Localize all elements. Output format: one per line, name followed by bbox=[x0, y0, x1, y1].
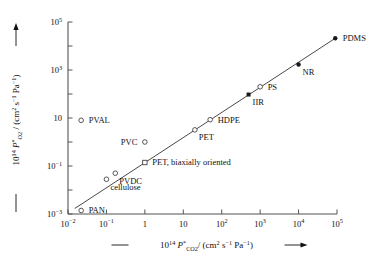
y-axis-title: 1014 P*O2 / (cm2 s−1 Pa−1) bbox=[10, 75, 23, 166]
point-label-ps: PS bbox=[268, 82, 278, 92]
chart-svg: 10−210−111010210310410510−310−110103105P… bbox=[0, 0, 379, 266]
point-label-pval: PVAL bbox=[89, 115, 110, 125]
point-label-pet-biax: PET, biaxially oriented bbox=[152, 157, 231, 167]
data-point-ps[interactable]: PS bbox=[258, 82, 278, 92]
y-tick-label: 10 bbox=[54, 113, 63, 123]
point-label-pvc: PVC bbox=[121, 137, 138, 147]
point-label-pvdc: PVDC bbox=[119, 176, 142, 186]
point-label-hdpe: HDPE bbox=[218, 115, 240, 125]
x-tick-label: 103 bbox=[254, 217, 266, 228]
x-axis-title: 1014 P*CO2/ (cm2 s−1 Pa−1) bbox=[160, 239, 253, 252]
marker-open-circle[interactable] bbox=[113, 171, 118, 176]
marker-open-circle[interactable] bbox=[143, 140, 148, 145]
marker-open-circle[interactable] bbox=[258, 84, 263, 89]
marker-open-circle[interactable] bbox=[208, 117, 213, 122]
x-tick-label: 10−1 bbox=[99, 217, 114, 228]
y-tick-label: 10−1 bbox=[47, 160, 62, 171]
marker-open-square[interactable] bbox=[143, 160, 147, 164]
point-label-pan: PAN bbox=[89, 205, 105, 215]
permeability-correlation-chart: 10−210−111010210310410510−310−110103105P… bbox=[0, 0, 379, 266]
point-label-nr: NR bbox=[303, 67, 315, 77]
data-point-iir[interactable]: IIR bbox=[247, 93, 265, 108]
marker-open-circle[interactable] bbox=[193, 128, 198, 133]
x-tick-label: 104 bbox=[293, 217, 305, 228]
point-label-pdms: PDMS bbox=[343, 33, 366, 43]
point-label-pet: PET bbox=[199, 132, 215, 142]
marker-open-circle[interactable] bbox=[104, 177, 109, 182]
x-tick-label: 102 bbox=[216, 217, 228, 228]
x-tick-label: 1 bbox=[143, 219, 147, 229]
x-title-arrowhead bbox=[301, 242, 308, 247]
data-point-pet[interactable]: PET bbox=[193, 128, 215, 143]
x-tick-label: 10−2 bbox=[60, 217, 75, 228]
y-title-arrowhead bbox=[13, 23, 18, 30]
data-point-pvc[interactable]: PVC bbox=[121, 137, 147, 147]
data-point-nr[interactable]: NR bbox=[296, 62, 314, 77]
marker-filled-circle[interactable] bbox=[296, 62, 300, 66]
marker-open-circle[interactable] bbox=[79, 118, 84, 123]
data-point-pval[interactable]: PVAL bbox=[79, 115, 110, 125]
y-tick-label: 105 bbox=[50, 16, 62, 27]
data-point-pdms[interactable]: PDMS bbox=[333, 33, 366, 43]
point-label-iir: IIR bbox=[253, 97, 265, 107]
data-point-hdpe[interactable]: HDPE bbox=[208, 115, 240, 125]
y-tick-label: 103 bbox=[50, 64, 62, 75]
x-tick-label: 10 bbox=[179, 219, 188, 229]
marker-filled-circle[interactable] bbox=[333, 36, 337, 40]
marker-open-circle[interactable] bbox=[79, 208, 84, 213]
marker-filled-square[interactable] bbox=[247, 93, 251, 97]
x-tick-label: 105 bbox=[331, 217, 343, 228]
data-point-pet-biax[interactable]: PET, biaxially oriented bbox=[143, 157, 232, 167]
